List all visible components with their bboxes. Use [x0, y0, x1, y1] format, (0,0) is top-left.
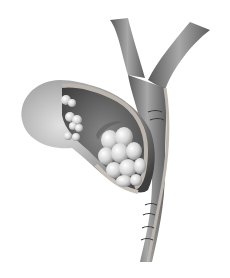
illustration-canvas: Cutaway gallbladder with gallstones in t…: [0, 0, 230, 278]
left-hepatic-duct: [110, 18, 145, 78]
right-hepatic-duct: [148, 22, 210, 90]
gallbladder-illustration: [0, 0, 230, 278]
